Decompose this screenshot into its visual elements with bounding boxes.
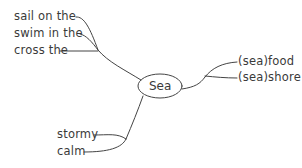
mind-map: sail on the swim in the cross the Sea (s… — [0, 0, 302, 168]
center-node-label: Sea — [149, 80, 171, 92]
branch-label-sail: sail on the — [14, 11, 76, 23]
branch-label-calm: calm — [57, 146, 86, 158]
connector-right-trunk — [182, 77, 205, 89]
connector-bottomleft-trunk — [126, 96, 143, 139]
branch-label-seafood: (sea)food — [238, 56, 294, 68]
connector-seafood — [205, 62, 237, 77]
connector-stormy — [94, 135, 126, 139]
branch-label-cross: cross the — [14, 45, 68, 57]
branch-label-seashore: (sea)shore — [238, 72, 301, 84]
connector-seashore — [205, 76, 237, 78]
branch-label-swim: swim in the — [14, 28, 83, 40]
branch-label-stormy: stormy — [57, 129, 98, 141]
connector-topleft-trunk — [98, 50, 141, 80]
